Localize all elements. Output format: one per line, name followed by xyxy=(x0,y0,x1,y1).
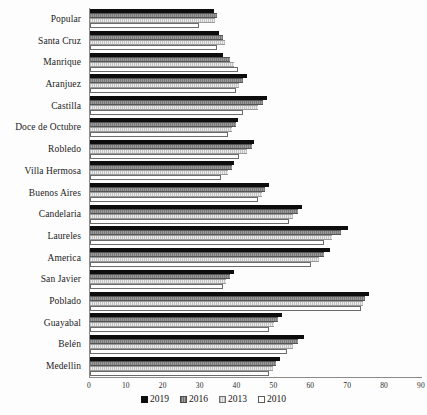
bar-group xyxy=(90,355,422,377)
category-label-laureles: Laureles xyxy=(47,231,81,241)
bar-2010-castilla xyxy=(90,110,243,115)
bar-2010-poblado xyxy=(90,306,361,311)
series-2013-swatch xyxy=(219,396,226,403)
bar-2010-medellin xyxy=(90,371,269,376)
x-tick-80: 80 xyxy=(380,381,388,390)
x-tick-30: 30 xyxy=(196,381,204,390)
category-label-belén: Belén xyxy=(58,339,81,349)
legend-item-2010[interactable]: 2010 xyxy=(258,394,286,404)
bar-2010-san-javier xyxy=(90,284,223,289)
x-tick-60: 60 xyxy=(306,381,314,390)
bar-2010-aranjuez xyxy=(90,88,236,93)
category-label-buenos-aires: Buenos Aires xyxy=(29,188,81,198)
bar-2010-santa-cruz xyxy=(90,45,217,50)
bar-group xyxy=(90,334,422,356)
category-label-robledo: Robledo xyxy=(48,144,81,154)
category-label-aranjuez: Aranjuez xyxy=(45,79,81,89)
bar-2010-doce-de-octubre xyxy=(90,132,228,137)
bar-2010-buenos-aires xyxy=(90,197,258,202)
legend-label: 2019 xyxy=(150,394,169,404)
category-label-guayabal: Guayabal xyxy=(44,318,81,328)
bar-group xyxy=(90,73,422,95)
legend-item-2016[interactable]: 2016 xyxy=(180,394,208,404)
bar-2010-belén xyxy=(90,349,287,354)
bar-group xyxy=(90,247,422,269)
category-label-manrique: Manrique xyxy=(43,57,81,67)
bar-2010-candelaria xyxy=(90,219,289,224)
bar-2010-manrique xyxy=(90,67,238,72)
category-label-poblado: Poblado xyxy=(49,296,81,306)
x-tick-10: 10 xyxy=(122,381,130,390)
bar-group xyxy=(90,117,422,139)
x-tick-40: 40 xyxy=(233,381,241,390)
x-tick-50: 50 xyxy=(269,381,277,390)
category-axis-labels: PopularSanta CruzManriqueAranjuezCastill… xyxy=(0,8,85,378)
legend-item-2013[interactable]: 2013 xyxy=(219,394,247,404)
bar-group xyxy=(90,8,422,30)
bar-group xyxy=(90,138,422,160)
bar-2010-guayabal xyxy=(90,327,269,332)
series-2019-swatch xyxy=(141,396,148,403)
bar-2010-laureles xyxy=(90,240,324,245)
bar-group xyxy=(90,95,422,117)
x-tick-20: 20 xyxy=(159,381,167,390)
bar-group xyxy=(90,30,422,52)
x-tick-70: 70 xyxy=(343,381,351,390)
bar-2010-america xyxy=(90,262,311,267)
bar-2010-popular xyxy=(90,23,199,28)
category-label-san-javier: San Javier xyxy=(41,274,81,284)
bar-2010-villa-hermosa xyxy=(90,175,221,180)
chart-legend: 2019201620132010 xyxy=(0,394,427,404)
legend-item-2019[interactable]: 2019 xyxy=(141,394,169,404)
x-tick-90: 90 xyxy=(417,381,425,390)
category-label-medellin: Medellin xyxy=(46,361,81,371)
bar-group xyxy=(90,203,422,225)
plot-area xyxy=(89,8,422,378)
bar-group xyxy=(90,182,422,204)
category-label-villa-hermosa: Villa Hermosa xyxy=(25,166,81,176)
bar-group xyxy=(90,290,422,312)
category-label-santa-cruz: Santa Cruz xyxy=(38,36,81,46)
legend-label: 2010 xyxy=(267,394,286,404)
category-label-doce-de-octubre: Doce de Octubre xyxy=(15,122,81,132)
category-label-america: America xyxy=(48,253,81,263)
series-2010-swatch xyxy=(258,396,265,403)
bar-group xyxy=(90,51,422,73)
bar-chart: PopularSanta CruzManriqueAranjuezCastill… xyxy=(0,0,427,415)
series-2016-swatch xyxy=(180,396,187,403)
legend-label: 2013 xyxy=(228,394,247,404)
category-label-popular: Popular xyxy=(51,14,81,24)
x-tick-0: 0 xyxy=(87,381,91,390)
value-axis-labels: 0102030405060708090 xyxy=(89,379,422,395)
bars-layer xyxy=(90,8,422,377)
bar-group xyxy=(90,160,422,182)
bar-group xyxy=(90,268,422,290)
bar-group xyxy=(90,225,422,247)
category-label-castilla: Castilla xyxy=(51,101,81,111)
bar-2010-robledo xyxy=(90,154,239,159)
category-label-candelaria: Candelaria xyxy=(39,209,81,219)
bar-group xyxy=(90,312,422,334)
legend-label: 2016 xyxy=(189,394,208,404)
